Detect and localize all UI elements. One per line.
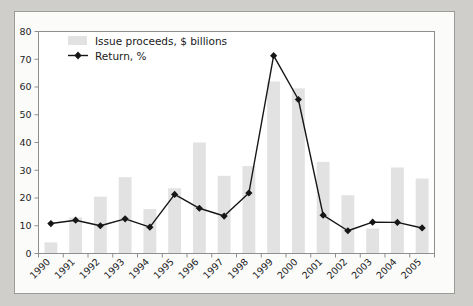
bar-2001 xyxy=(317,162,330,254)
x-tick-label-1999: 1999 xyxy=(250,256,275,281)
bar-2002 xyxy=(341,195,354,253)
x-tick-label-1995: 1995 xyxy=(151,256,176,281)
screenshot-page: 80706050403020100 1990199119921993199419… xyxy=(0,0,473,306)
x-tick-label-1998: 1998 xyxy=(225,256,250,281)
legend-swatch-issue-proceeds xyxy=(68,36,87,45)
y-tick-label: 60 xyxy=(19,81,31,92)
x-tick-label-2003: 2003 xyxy=(349,256,374,281)
y-tick-label: 40 xyxy=(19,137,31,148)
legend-label-issue-proceeds: Issue proceeds, $ billions xyxy=(95,35,227,47)
y-tick-label: 50 xyxy=(19,109,31,120)
bar-2005 xyxy=(416,179,429,254)
x-tick-label-2000: 2000 xyxy=(275,256,300,281)
y-tick-label: 80 xyxy=(19,26,31,37)
y-tick-label: 10 xyxy=(19,220,31,231)
legend-label-return: Return, % xyxy=(95,50,147,62)
y-tick-label: 30 xyxy=(19,165,31,176)
y-axis: 80706050403020100 xyxy=(19,26,38,259)
x-tick-label-1997: 1997 xyxy=(201,256,226,281)
x-tick-label-1990: 1990 xyxy=(27,256,52,281)
bar-1998 xyxy=(242,166,255,253)
bar-2003 xyxy=(366,229,379,254)
bar-1999 xyxy=(267,81,280,253)
x-tick-label-1991: 1991 xyxy=(52,256,77,281)
bar-2000 xyxy=(292,88,305,253)
x-tick-label-1994: 1994 xyxy=(126,256,151,281)
x-tick-label-2005: 2005 xyxy=(399,256,424,281)
y-tick-label: 70 xyxy=(19,54,31,65)
x-tick-label-1992: 1992 xyxy=(77,256,102,281)
y-tick-label: 20 xyxy=(19,192,31,203)
chart-svg: 80706050403020100 1990199119921993199419… xyxy=(0,0,473,306)
x-tick-label-2001: 2001 xyxy=(300,256,325,281)
y-tick-label: 0 xyxy=(25,248,31,259)
bar-1996 xyxy=(193,143,206,254)
chart-figure: 80706050403020100 1990199119921993199419… xyxy=(0,0,473,306)
x-axis-labels: 1990199119921993199419951996199719981999… xyxy=(27,256,423,281)
x-tick-label-1993: 1993 xyxy=(102,256,127,281)
bar-1994 xyxy=(143,209,156,253)
bar-2004 xyxy=(391,167,404,253)
bar-1995 xyxy=(168,188,181,253)
x-tick-label-2002: 2002 xyxy=(324,256,349,281)
bar-1990 xyxy=(44,242,57,253)
x-tick-label-1996: 1996 xyxy=(176,256,201,281)
x-tick-label-2004: 2004 xyxy=(374,256,399,281)
x-axis-ticks xyxy=(39,254,435,258)
